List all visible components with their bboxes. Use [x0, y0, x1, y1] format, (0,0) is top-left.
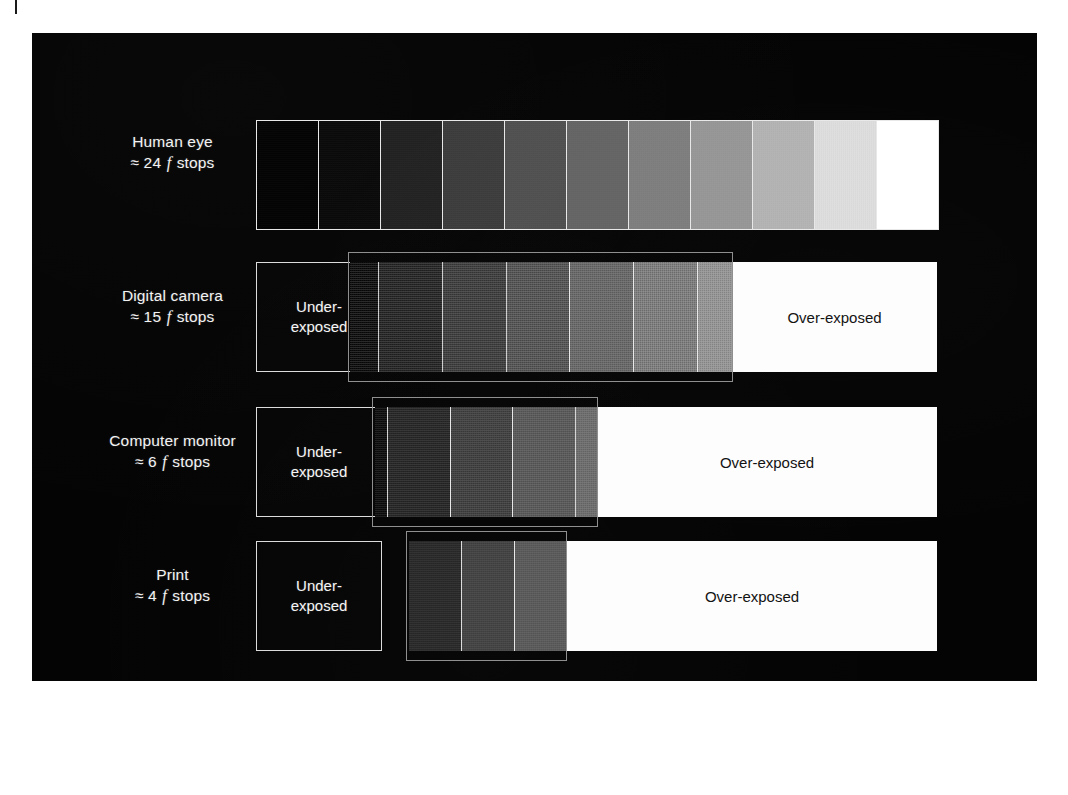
under-exposed-label-line2: exposed [291, 596, 348, 616]
tonal-band-print [409, 541, 567, 651]
row-stops-digital-camera: ≈ 15 f stops [80, 306, 265, 327]
under-exposed-label-line1: Under- [296, 297, 342, 317]
under-exposed-box-computer-monitor: Under- exposed [256, 407, 382, 517]
row-label-human-eye: Human eye ≈ 24 f stops [80, 131, 265, 173]
under-exposed-label-line1: Under- [296, 576, 342, 596]
wedge-step [876, 121, 938, 229]
band-step [378, 262, 442, 372]
band-step [633, 262, 697, 372]
over-exposed-box-print: Over-exposed [567, 541, 937, 651]
over-exposed-box-computer-monitor: Over-exposed [597, 407, 937, 517]
wedge-step [257, 121, 318, 229]
band-step [575, 407, 598, 517]
under-exposed-label-line2: exposed [291, 317, 348, 337]
under-exposed-box-print: Under- exposed [256, 541, 382, 651]
band-step [697, 262, 732, 372]
wedge-step [814, 121, 876, 229]
row-title-computer-monitor: Computer monitor [109, 432, 235, 449]
band-step [409, 541, 461, 651]
wedge-step [380, 121, 442, 229]
crop-registration-tick [15, 0, 17, 14]
row-label-computer-monitor: Computer monitor ≈ 6 f stops [70, 430, 275, 472]
band-step [350, 262, 378, 372]
over-exposed-label: Over-exposed [705, 588, 799, 605]
band-step [514, 541, 567, 651]
tonal-band-computer-monitor [375, 407, 597, 517]
band-step [461, 541, 514, 651]
f-italic-glyph: f [161, 453, 168, 470]
band-step [387, 407, 449, 517]
under-exposed-label-line1: Under- [296, 442, 342, 462]
grayscale-wedge-human-eye [256, 120, 939, 230]
over-exposed-label: Over-exposed [720, 454, 814, 471]
wedge-step [442, 121, 504, 229]
wedge-step [628, 121, 690, 229]
wedge-step [752, 121, 814, 229]
row-stops-computer-monitor: ≈ 6 f stops [70, 451, 275, 472]
wedge-step [566, 121, 628, 229]
row-label-digital-camera: Digital camera ≈ 15 f stops [80, 285, 265, 327]
band-step [512, 407, 574, 517]
row-stops-human-eye: ≈ 24 f stops [80, 152, 265, 173]
row-label-print: Print ≈ 4 f stops [80, 564, 265, 606]
band-step [442, 262, 506, 372]
over-exposed-box-digital-camera: Over-exposed [732, 262, 937, 372]
over-exposed-label: Over-exposed [787, 309, 881, 326]
wedge-step [690, 121, 752, 229]
under-exposed-label-line2: exposed [291, 462, 348, 482]
wedge-step [318, 121, 380, 229]
row-stops-print: ≈ 4 f stops [80, 585, 265, 606]
figure-page: Human eye ≈ 24 f stops Digital camera [0, 0, 1068, 795]
band-step [506, 262, 570, 372]
row-title-print: Print [156, 566, 189, 583]
dynamic-range-figure-panel: Human eye ≈ 24 f stops Digital camera [32, 33, 1037, 681]
band-step [375, 407, 387, 517]
f-italic-glyph: f [161, 587, 168, 604]
row-title-digital-camera: Digital camera [122, 287, 223, 304]
tonal-band-digital-camera [350, 262, 732, 372]
row-title-human-eye: Human eye [132, 133, 213, 150]
band-step [569, 262, 633, 372]
wedge-step [504, 121, 566, 229]
band-step [450, 407, 512, 517]
